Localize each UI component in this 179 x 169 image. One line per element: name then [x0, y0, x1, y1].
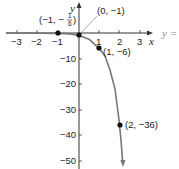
y-tick-label: −10	[60, 53, 76, 64]
point-label-1: (1, −6)	[103, 46, 131, 57]
x-axis: −3 −2 −1 1 2 3 x y = 0	[6, 27, 179, 47]
curve-arrow-icon	[120, 160, 125, 167]
point-marker	[55, 30, 60, 35]
leader-line	[80, 16, 97, 34]
x-axis-label: x	[148, 35, 154, 47]
exponential-graph: −3 −2 −1 1 2 3 x y = 0 −10 −20 −30 −40 −…	[0, 0, 179, 169]
svg-text:6: 6	[68, 20, 72, 27]
asymptote-label: y = 0	[161, 27, 179, 39]
x-tick-label: −2	[31, 36, 42, 47]
point-marker	[117, 122, 122, 127]
x-tick-label: −3	[11, 36, 22, 47]
y-axis-arrow-icon	[77, 2, 82, 8]
y-tick-label: −30	[60, 104, 76, 115]
point-marker	[96, 45, 101, 50]
y-tick-label: −20	[60, 78, 76, 89]
point-label-0: (0, −1)	[97, 5, 125, 16]
x-tick-label: −1	[52, 36, 63, 47]
x-tick-label: 3	[137, 36, 142, 47]
point-marker	[76, 32, 81, 37]
point-label-2: (2, −36)	[125, 119, 158, 130]
y-tick-label: −40	[60, 129, 76, 140]
y-axis: −10 −20 −30 −40 −50 y	[60, 2, 82, 169]
y-tick-label: −50	[60, 155, 76, 166]
svg-text:1: 1	[68, 12, 72, 19]
svg-text:(−1, −: (−1, −	[39, 14, 64, 25]
point-label-minus1: (−1, − 1 6 )	[39, 12, 76, 27]
svg-text:): )	[73, 14, 76, 25]
